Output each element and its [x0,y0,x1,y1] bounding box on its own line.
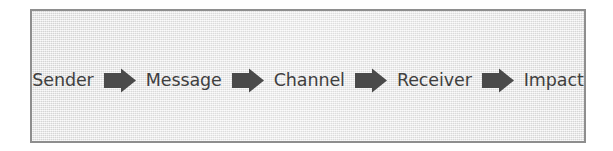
flow-step-impact: Impact [517,72,586,90]
flow-step-message: Message [139,72,229,90]
figure-canvas: Sender Message Channel Rec [0,0,613,151]
diagram-panel: Sender Message Channel Rec [30,9,586,143]
right-arrow-icon [103,68,137,93]
right-arrow-icon [481,68,515,93]
flow-step-sender: Sender [30,72,101,90]
communication-process-flow: Sender Message Channel Rec [32,68,584,93]
right-arrow-icon [231,68,265,93]
right-arrow-icon [354,68,388,93]
flow-step-channel: Channel [267,72,352,90]
flow-step-receiver: Receiver [390,72,479,90]
